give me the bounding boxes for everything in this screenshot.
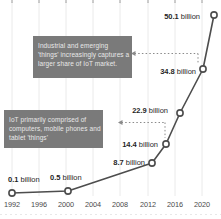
data-point-marker [200, 66, 206, 72]
x-axis-label: 2012 [140, 200, 156, 209]
data-point-marker [9, 190, 15, 196]
data-point-label: 34.8 billion [160, 67, 196, 76]
data-point-marker [65, 188, 71, 194]
data-point-marker [163, 141, 169, 147]
data-point-label: 0.5 billion [50, 173, 82, 182]
x-axis-label: 1992 [4, 200, 20, 209]
data-point-label: 14.4 billion [122, 140, 158, 149]
data-point-label: 0.1 billion [8, 175, 40, 184]
data-point-label: 22.9 billion [132, 106, 168, 115]
annotation-early-iot: IoT primarily comprised ofcomputers, mob… [4, 110, 103, 148]
data-point-label: 50.1 billion [164, 12, 200, 21]
x-axis-label: 2008 [112, 200, 128, 209]
data-point-label: 8.7 billion [113, 158, 145, 167]
data-point-marker [177, 110, 183, 116]
x-axis-label: 2016 [167, 200, 183, 209]
data-point-marker [149, 160, 155, 166]
data-point-marker [211, 12, 217, 18]
annotation-industrial-things: Industrial and emerging'things' increasi… [33, 36, 132, 78]
x-axis-label: 2020 [194, 200, 210, 209]
x-axis-label: 2004 [85, 200, 101, 209]
x-axis-label: 1996 [31, 200, 47, 209]
x-axis-label: 2000 [58, 200, 74, 209]
iot-connected-devices-chart: 0.1 billion0.5 billion8.7 billion14.4 bi… [0, 0, 221, 219]
